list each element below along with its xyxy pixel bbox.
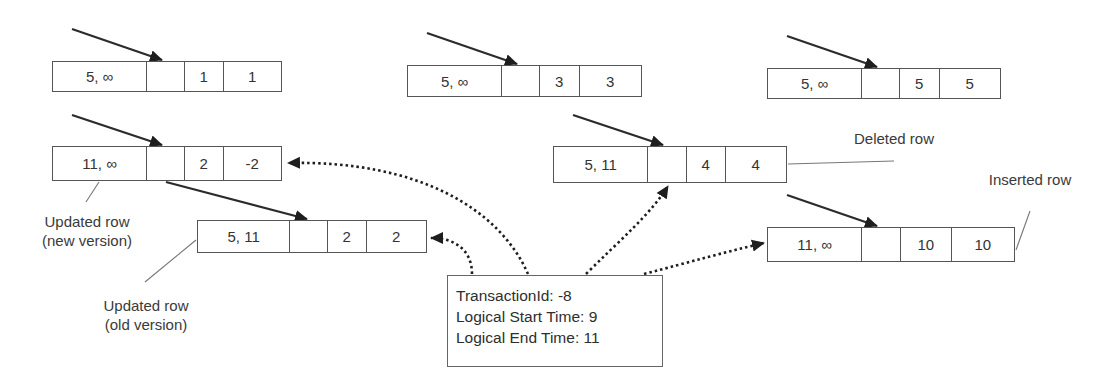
pointer-arrow-row-3 bbox=[427, 33, 517, 64]
label-line: Updated row bbox=[85, 296, 207, 315]
label-inserted-row: Inserted row bbox=[972, 170, 1088, 189]
pointer-arrow-row-10 bbox=[787, 195, 877, 226]
cell-value: 10 bbox=[952, 228, 1014, 261]
cell-timestamps: 11, ∞ bbox=[53, 147, 147, 180]
cell-timestamps: 5, ∞ bbox=[408, 66, 502, 96]
row-version-10-inserted: 11, ∞ 10 10 bbox=[767, 227, 1015, 262]
row-version-2-new: 11, ∞ 2 -2 bbox=[52, 146, 282, 181]
cell-value: 5 bbox=[940, 69, 1000, 98]
cell-key: 10 bbox=[901, 228, 952, 261]
logical-end-time: Logical End Time: 11 bbox=[456, 327, 662, 348]
label-updated-row-old-version: Updated row (old version) bbox=[85, 296, 207, 334]
txn-ref-to-deleted-row bbox=[586, 186, 668, 274]
row-version-3: 5, ∞ 3 3 bbox=[407, 65, 642, 97]
cell-timestamps: 5, 11 bbox=[554, 147, 648, 182]
cell-pointer bbox=[147, 147, 185, 180]
diagram-canvas: 5, ∞ 1 1 5, ∞ 3 3 5, ∞ 5 5 11, ∞ 2 -2 5,… bbox=[0, 0, 1117, 391]
cell-value: 3 bbox=[580, 66, 641, 96]
cell-value: -2 bbox=[224, 147, 281, 180]
cell-key: 5 bbox=[900, 69, 940, 98]
pointer-arrow-row-5 bbox=[787, 36, 877, 67]
cell-value: 1 bbox=[224, 62, 281, 91]
callout-inserted bbox=[1016, 211, 1030, 250]
cell-key: 3 bbox=[540, 66, 580, 96]
txn-ref-to-new-version bbox=[288, 163, 528, 274]
cell-pointer bbox=[648, 147, 687, 182]
txn-ref-to-old-version bbox=[431, 238, 472, 274]
cell-timestamps: 5, 11 bbox=[198, 221, 290, 252]
cell-timestamps: 5, ∞ bbox=[53, 62, 147, 91]
version-chain-arrow bbox=[166, 182, 307, 219]
row-version-5: 5, ∞ 5 5 bbox=[767, 68, 1001, 99]
label-deleted-row: Deleted row bbox=[838, 129, 950, 148]
label-line: (new version) bbox=[26, 231, 148, 250]
cell-value: 2 bbox=[367, 221, 426, 252]
logical-start-time: Logical Start Time: 9 bbox=[456, 306, 662, 327]
cell-pointer bbox=[147, 62, 185, 91]
pointer-arrows bbox=[72, 29, 877, 226]
cell-pointer bbox=[290, 221, 328, 252]
cell-key: 2 bbox=[185, 147, 224, 180]
pointer-arrow-row-1 bbox=[72, 29, 162, 60]
cell-pointer bbox=[862, 69, 900, 98]
cell-pointer bbox=[862, 228, 901, 261]
label-line: Updated row bbox=[26, 212, 148, 231]
cell-timestamps: 5, ∞ bbox=[768, 69, 862, 98]
pointer-arrow-row-4 bbox=[573, 115, 663, 145]
callout-updated-new bbox=[86, 182, 99, 202]
row-version-4-deleted: 5, 11 4 4 bbox=[553, 146, 787, 183]
callout-updated-old bbox=[145, 240, 196, 282]
callout-deleted bbox=[788, 161, 894, 164]
label-updated-row-new-version: Updated row (new version) bbox=[26, 212, 148, 250]
row-version-2-old: 5, 11 2 2 bbox=[197, 220, 427, 253]
transaction-id: TransactionId: -8 bbox=[456, 285, 662, 306]
txn-ref-to-inserted-row bbox=[644, 243, 764, 274]
label-line: (old version) bbox=[85, 315, 207, 334]
pointer-arrow-row-2-new bbox=[72, 115, 162, 145]
transaction-info-box: TransactionId: -8 Logical Start Time: 9 … bbox=[447, 275, 663, 367]
cell-value: 4 bbox=[726, 147, 786, 182]
row-version-1: 5, ∞ 1 1 bbox=[52, 61, 282, 92]
cell-key: 1 bbox=[185, 62, 224, 91]
cell-key: 4 bbox=[687, 147, 726, 182]
cell-key: 2 bbox=[328, 221, 367, 252]
cell-pointer bbox=[502, 66, 540, 96]
cell-timestamps: 11, ∞ bbox=[768, 228, 862, 261]
